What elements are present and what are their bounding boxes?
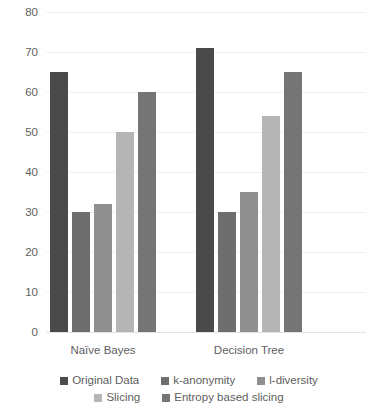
y-axis-tick-label: 0: [0, 326, 38, 338]
gridline: [46, 332, 366, 333]
y-axis-tick-label: 80: [0, 6, 38, 18]
y-axis-tick-label: 10: [0, 286, 38, 298]
bar: [72, 212, 90, 332]
y-axis-tick-label: 70: [0, 46, 38, 58]
legend-label: k-anonymity: [173, 374, 235, 387]
bar: [240, 192, 258, 332]
legend-item[interactable]: Slicing: [94, 391, 140, 404]
bar-group: [196, 12, 302, 332]
bar-chart: 01020304050607080 Naïve BayesDecision Tr…: [0, 0, 378, 415]
bar: [94, 204, 112, 332]
legend-label: Slicing: [106, 391, 140, 404]
y-axis-tick-label: 60: [0, 86, 38, 98]
bar: [218, 212, 236, 332]
chart-legend: Original Datak-anonymityl-diversitySlici…: [0, 372, 378, 406]
legend-label: Original Data: [72, 374, 139, 387]
y-axis-tick-label: 20: [0, 246, 38, 258]
legend-item[interactable]: k-anonymity: [161, 374, 235, 387]
legend-item[interactable]: Entropy based slicing: [162, 391, 283, 404]
legend-label: l-diversity: [269, 374, 318, 387]
legend-swatch-icon: [94, 394, 102, 402]
bar: [116, 132, 134, 332]
legend-swatch-icon: [162, 394, 170, 402]
legend-swatch-icon: [161, 377, 169, 385]
bar: [284, 72, 302, 332]
legend-label: Entropy based slicing: [174, 391, 283, 404]
legend-item[interactable]: Original Data: [60, 374, 139, 387]
y-axis-tick-label: 30: [0, 206, 38, 218]
bar: [50, 72, 68, 332]
x-axis-category-label: Decision Tree: [176, 344, 322, 357]
plot-area: [46, 12, 366, 332]
y-axis-tick-label: 40: [0, 166, 38, 178]
y-axis-tick-label: 50: [0, 126, 38, 138]
bar: [196, 48, 214, 332]
bar: [262, 116, 280, 332]
legend-swatch-icon: [60, 377, 68, 385]
legend-row: Original Datak-anonymityl-diversity: [0, 372, 378, 389]
x-axis-category-label: Naïve Bayes: [30, 344, 176, 357]
legend-item[interactable]: l-diversity: [257, 374, 318, 387]
legend-swatch-icon: [257, 377, 265, 385]
bar: [138, 92, 156, 332]
bar-group: [50, 12, 156, 332]
legend-row: SlicingEntropy based slicing: [0, 389, 378, 406]
